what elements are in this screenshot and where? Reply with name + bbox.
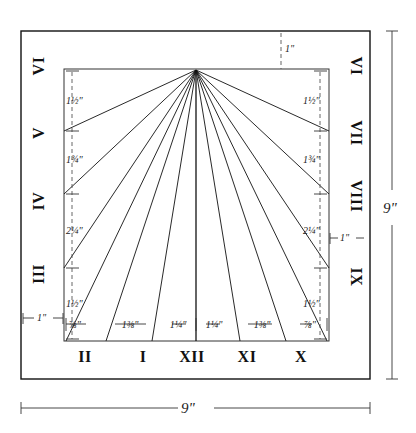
overall-width-label: 9": [181, 400, 196, 416]
hour-line-x: [196, 70, 286, 341]
hour-line-i: [152, 70, 196, 341]
left-vertical-dim-labels: 1½" 1¾" 2¼" 1½": [66, 95, 84, 309]
hour-line-iv: [64, 70, 196, 268]
left-dim-label-0: 1½": [66, 95, 84, 106]
bottom-hour-numerals: II I XII XI X: [78, 348, 307, 365]
hour-numeral-right-0: VI: [348, 57, 365, 76]
hour-numeral-left-3: III: [30, 264, 47, 284]
hour-numeral-bottom-0: II: [78, 348, 91, 365]
hour-numeral-left-1: V: [30, 127, 47, 139]
hour-line-ii: [106, 70, 196, 341]
bottom-dim-label-2: 1¼": [170, 319, 188, 330]
hour-line-iii: [66, 70, 196, 341]
left-margin-label: 1": [37, 312, 47, 323]
right-dim-label-3: 1½": [303, 298, 321, 309]
bottom-dim-label-1: 1⅜": [122, 319, 140, 330]
right-vertical-dim-labels: 1½" 1¾" 2¼" 1½": [303, 95, 321, 309]
right-dim-label-0: 1½": [303, 95, 321, 106]
hour-numeral-right-3: IX: [348, 268, 365, 287]
hour-line-xi: [196, 70, 240, 341]
bottom-dim-label-0: ⅞": [69, 319, 82, 330]
hour-numeral-bottom-3: XI: [238, 348, 257, 365]
hour-numeral-bottom-1: I: [140, 348, 147, 365]
bottom-dim-label-5: ⅞": [304, 319, 317, 330]
right-dim-label-2: 2¼": [303, 225, 321, 236]
sundial-diagram: 1" 1" 1" VI V IV III VI VII VIII IX II I…: [0, 0, 416, 433]
bottom-dim-label-3: 1¼": [206, 319, 224, 330]
hour-numeral-bottom-4: X: [295, 348, 307, 365]
hour-lines: [64, 70, 329, 341]
left-dim-label-1: 1¾": [66, 154, 84, 165]
hour-numeral-bottom-2: XII: [179, 348, 205, 365]
left-hour-numerals: VI V IV III: [30, 57, 47, 284]
overall-height-label: 9": [383, 200, 398, 216]
hour-numeral-left-0: VI: [30, 57, 47, 76]
right-dim-label-1: 1¾": [303, 154, 321, 165]
top-margin-label: 1": [285, 43, 295, 54]
left-dim-label-3: 1½": [66, 298, 84, 309]
hour-numeral-left-2: IV: [30, 192, 47, 211]
overall-width-dimension: [21, 402, 370, 414]
bottom-dim-label-4: 1⅜": [254, 319, 272, 330]
left-dim-label-2: 2¼": [66, 225, 84, 236]
hour-line-v: [64, 70, 196, 194]
hour-line-vii: [196, 70, 329, 194]
hour-numeral-right-2: VIII: [348, 180, 365, 212]
right-margin-label: 1": [340, 232, 350, 243]
hour-numeral-right-1: VII: [348, 120, 365, 146]
right-hour-numerals: VI VII VIII IX: [348, 57, 365, 287]
